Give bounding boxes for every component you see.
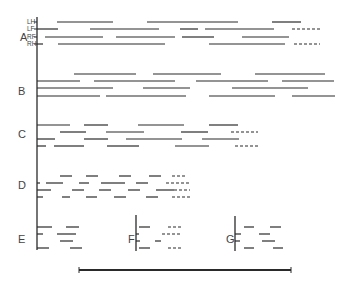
limb-label-rh: RH [27,40,36,47]
limb-label-rf: RF [27,33,36,40]
limb-label-lf: LF [27,25,35,32]
group-label-f: F [128,233,135,245]
diagram-canvas [0,0,352,282]
group-label-e: E [18,233,25,245]
group-label-d: D [18,179,26,191]
group-label-c: C [18,128,26,140]
limb-label-lh: LH [27,18,35,25]
group-label-b: B [18,85,25,97]
group-label-g: G [226,233,235,245]
